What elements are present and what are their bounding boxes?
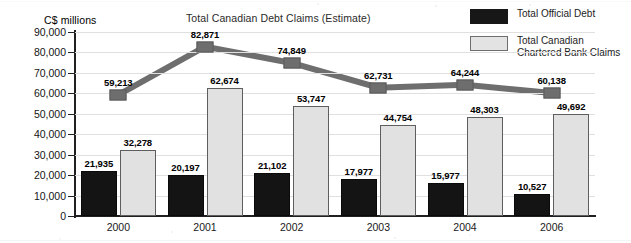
bar-official-debt <box>168 175 204 216</box>
line-data-marker <box>457 79 474 90</box>
y-axis-tick <box>68 216 75 217</box>
y-axis-tick-labels: 90,00080,00070,00060,00050,00040,00030,0… <box>0 0 66 243</box>
bar-bank-claims <box>467 117 503 216</box>
y-axis-tick <box>68 114 75 115</box>
bar-value-label: 10,527 <box>508 181 556 192</box>
y-axis-tick-label: 20,000 <box>2 169 66 181</box>
x-axis-category-label: 2003 <box>348 221 408 233</box>
bar-official-debt <box>254 173 290 216</box>
bar-value-label: 49,692 <box>547 101 595 112</box>
gridline <box>75 52 595 53</box>
y-axis-tick-label: 30,000 <box>2 149 66 161</box>
x-axis-category-label: 2002 <box>262 221 322 233</box>
gridline <box>75 114 595 115</box>
bar-official-debt <box>341 179 377 216</box>
bar-value-label: 48,303 <box>461 104 509 115</box>
y-axis-tick <box>68 73 75 74</box>
y-axis-tick-label: 40,000 <box>2 128 66 140</box>
line-data-marker <box>110 89 127 100</box>
y-axis-tick-label: 10,000 <box>2 190 66 202</box>
x-axis-category-label: 2004 <box>435 221 495 233</box>
y-axis-tick-label: 90,000 <box>2 26 66 38</box>
y-axis-tick <box>68 32 75 33</box>
gridline <box>75 32 595 33</box>
line-value-label: 64,244 <box>437 67 493 78</box>
bar-bank-claims <box>207 88 243 216</box>
line-data-marker <box>283 57 300 68</box>
legend-label-official-debt: Total Official Debt <box>517 8 595 20</box>
y-axis-tick-label: 70,000 <box>2 67 66 79</box>
gridline <box>75 134 595 135</box>
bar-value-label: 62,674 <box>201 75 249 86</box>
bar-value-label: 53,747 <box>287 93 335 104</box>
bar-value-label: 21,935 <box>75 158 123 169</box>
y-axis-tick-label: 0 <box>2 210 66 222</box>
y-axis-tick <box>68 93 75 94</box>
x-axis-category-label: 2006 <box>522 221 582 233</box>
plot-area: 21,93520,19721,10217,97715,97710,52732,2… <box>75 32 595 216</box>
y-axis-tick <box>68 155 75 156</box>
y-axis-tick <box>68 52 75 53</box>
bar-official-debt <box>428 183 464 216</box>
legend-item-official-debt: Total Official Debt <box>470 8 630 24</box>
y-axis-tick-label: 80,000 <box>2 46 66 58</box>
y-axis-tick-label: 60,000 <box>2 87 66 99</box>
chart-title: Total Canadian Debt Claims (Estimate) <box>186 12 371 24</box>
y-axis-tick <box>68 175 75 176</box>
line-value-label: 62,731 <box>350 70 406 81</box>
line-value-label: 82,871 <box>177 29 233 40</box>
line-data-marker <box>197 41 214 52</box>
bar-official-debt <box>514 194 550 216</box>
legend-swatch-official-debt <box>470 9 508 24</box>
bar-value-label: 21,102 <box>248 160 296 171</box>
y-axis-tick-label: 50,000 <box>2 108 66 120</box>
bar-official-debt <box>81 171 117 216</box>
y-axis-tick <box>68 196 75 197</box>
bar-value-label: 44,754 <box>374 112 422 123</box>
bar-value-label: 17,977 <box>335 166 383 177</box>
bar-bank-claims <box>293 106 329 216</box>
bar-bank-claims <box>120 150 156 216</box>
bar-value-label: 15,977 <box>422 170 470 181</box>
line-value-label: 74,849 <box>264 45 320 56</box>
gridline <box>75 73 595 74</box>
debt-claims-chart: C$ millions Total Canadian Debt Claims (… <box>0 0 631 243</box>
bar-bank-claims <box>553 114 589 216</box>
line-data-marker <box>370 82 387 93</box>
line-value-label: 60,138 <box>524 75 580 86</box>
line-value-label: 59,213 <box>90 77 146 88</box>
bar-value-label: 20,197 <box>162 162 210 173</box>
x-axis-category-label: 2001 <box>175 221 235 233</box>
y-axis-tick <box>68 134 75 135</box>
bar-value-label: 32,278 <box>114 137 162 148</box>
line-data-marker <box>543 88 560 99</box>
bar-bank-claims <box>380 125 416 216</box>
x-axis-category-label: 2000 <box>88 221 148 233</box>
